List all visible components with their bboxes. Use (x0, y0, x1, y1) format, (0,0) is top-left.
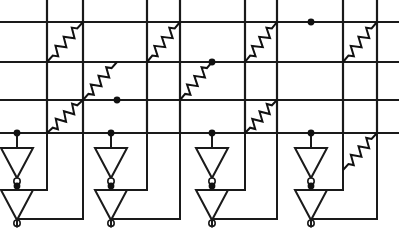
resistor-r2c4[interactable] (180, 62, 212, 100)
resistor-r2c2[interactable] (83, 62, 117, 100)
resistor-r1c7[interactable] (343, 22, 377, 62)
inverter-bottom-4[interactable] (295, 190, 327, 220)
inverter-bottom-3[interactable] (196, 190, 228, 220)
inverter-top-2[interactable] (95, 148, 127, 178)
junction-dot-a (114, 97, 121, 104)
junction-dot-b (209, 59, 216, 66)
inverter-bottom-2[interactable] (95, 190, 127, 220)
inverter-cell-group (1, 133, 377, 226)
resistor-r3c1[interactable] (47, 100, 83, 133)
circuit-schematic (0, 0, 399, 231)
resistor-r1c3[interactable] (147, 22, 180, 62)
resistor-r3c5[interactable] (245, 100, 277, 133)
inverter-cell-3 (196, 133, 277, 226)
junction-dot-c (308, 19, 315, 26)
junction-dot-in-2 (108, 130, 115, 137)
vertical-bus-group (47, 0, 377, 133)
inverter-bottom-1[interactable] (1, 190, 33, 220)
inverter-top-3[interactable] (196, 148, 228, 178)
junction-dot-mid-4 (308, 183, 315, 190)
schematic-canvas (0, 0, 399, 231)
junction-dot-mid-1 (14, 183, 21, 190)
resistor-r1c5[interactable] (245, 22, 277, 62)
inverter-top-1[interactable] (1, 148, 33, 178)
inverter-cell-1 (1, 133, 83, 226)
resistor-r1c1[interactable] (47, 22, 83, 62)
junction-dot-in-3 (209, 130, 216, 137)
junction-dot-in-4 (308, 130, 315, 137)
inverter-top-4[interactable] (295, 148, 327, 178)
inverter-cell-2 (95, 133, 180, 226)
junction-dot-mid-2 (108, 183, 115, 190)
junction-dot-in-1 (14, 130, 21, 137)
junction-dot-mid-3 (209, 183, 216, 190)
resistor-r4c7[interactable] (343, 133, 377, 170)
